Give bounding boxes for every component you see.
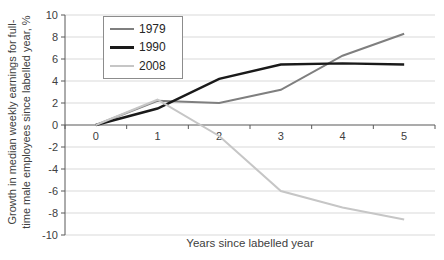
y-tick-label: 6 <box>52 53 58 65</box>
y-tick-label: -2 <box>48 141 58 153</box>
y-tick-label: -10 <box>42 229 58 241</box>
y-tick-label: 0 <box>52 119 58 131</box>
y-tick-label: -8 <box>48 207 58 219</box>
x-tick-label: 1 <box>154 130 160 142</box>
legend-swatch-2008 <box>110 65 134 67</box>
y-tick-label: 2 <box>52 97 58 109</box>
legend-item-2008: 2008 <box>110 59 176 73</box>
x-tick-label: 0 <box>93 130 99 142</box>
legend-swatch-1990 <box>110 46 134 48</box>
y-tick-label: -4 <box>48 163 58 175</box>
series-line-2008 <box>96 100 404 220</box>
y-tick-label: 4 <box>52 75 58 87</box>
x-tick-label: 4 <box>339 130 345 142</box>
y-tick-label: 8 <box>52 31 58 43</box>
legend-label-1979: 1979 <box>139 22 166 36</box>
x-tick-label: 3 <box>278 130 284 142</box>
plot-area: 1086420-2-4-6-8-10012345 <box>0 0 444 260</box>
y-tick-label: -6 <box>48 185 58 197</box>
legend: 1979 1990 2008 <box>103 16 183 79</box>
x-axis-title: Years since labelled year <box>65 237 435 249</box>
legend-label-1990: 1990 <box>139 40 166 54</box>
legend-item-1979: 1979 <box>110 22 176 36</box>
y-axis-title: Growth in median weekly earnings for ful… <box>5 7 33 237</box>
y-axis-title-line2: time male employees since labelled year,… <box>19 7 33 237</box>
legend-swatch-1979 <box>110 28 134 30</box>
legend-label-2008: 2008 <box>139 59 166 73</box>
x-tick-label: 5 <box>401 130 407 142</box>
legend-item-1990: 1990 <box>110 40 176 54</box>
y-tick-label: 10 <box>46 9 58 21</box>
earnings-growth-line-chart: 1086420-2-4-6-8-10012345 Growth in media… <box>0 0 444 260</box>
y-axis-title-line1: Growth in median weekly earnings for ful… <box>5 7 19 237</box>
